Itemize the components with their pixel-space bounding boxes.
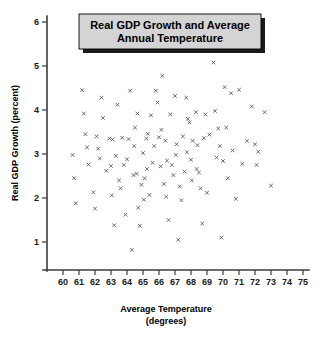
y-tick-label: 2 (34, 193, 39, 203)
x-tick-label: 68 (186, 277, 196, 287)
chart-title-line-1: Real GDP Growth and Average (90, 19, 250, 31)
x-tick-label: 71 (234, 277, 244, 287)
x-tick-label: 70 (218, 277, 228, 287)
y-tick-label: 5 (34, 61, 39, 71)
x-tick-label: 67 (170, 277, 180, 287)
chart-svg: 1234567 60616263646566676869707172737475… (0, 0, 320, 338)
x-tick-label: 61 (74, 277, 84, 287)
x-tick-label: 74 (282, 277, 292, 287)
chart-title-box: Real GDP Growth and AverageAnnual Temper… (79, 14, 265, 53)
x-tick-label: 75 (298, 277, 308, 287)
scatter-chart-figure: 1234567 60616263646566676869707172737475… (0, 0, 320, 338)
y-tick-label: 1 (34, 237, 39, 247)
x-tick-label: 63 (106, 277, 116, 287)
chart-title-line-2: Annual Temperature (117, 32, 223, 44)
y-tick-label: 6 (34, 17, 39, 27)
y-tick-label: 3 (34, 149, 39, 159)
x-tick-label: 62 (90, 277, 100, 287)
x-tick-label: 64 (122, 277, 132, 287)
y-axis-title: Real GDP Growth (percent) (10, 85, 20, 201)
x-tick-label: 66 (154, 277, 164, 287)
y-tick-label: 4 (34, 105, 39, 115)
x-tick-label: 69 (202, 277, 212, 287)
x-axis-title: Average Temperature (120, 304, 212, 314)
x-tick-label: 72 (250, 277, 260, 287)
x-tick-label: 60 (58, 277, 68, 287)
x-tick-label: 65 (138, 277, 148, 287)
x-tick-label: 73 (266, 277, 276, 287)
x-axis-title-units: (degrees) (146, 316, 187, 326)
